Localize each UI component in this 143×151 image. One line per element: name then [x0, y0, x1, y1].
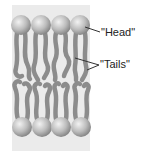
- head-sphere: [71, 117, 91, 137]
- head-sphere: [11, 15, 31, 35]
- head-sphere: [51, 15, 71, 35]
- head-sphere: [70, 15, 90, 35]
- head-sphere: [32, 117, 52, 137]
- tails-label: "Tails": [100, 59, 130, 70]
- head-sphere: [12, 117, 32, 137]
- bilayer-diagram: [0, 0, 143, 151]
- head-sphere: [51, 117, 71, 137]
- head-label: "Head": [101, 27, 135, 38]
- head-sphere: [31, 15, 51, 35]
